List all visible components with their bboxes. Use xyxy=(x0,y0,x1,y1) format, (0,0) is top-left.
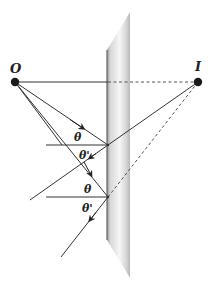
angle-incidence-label-1: θ xyxy=(74,131,82,144)
image-label: I xyxy=(194,59,202,74)
reflection-point-1 xyxy=(107,144,109,146)
reflection-point-2 xyxy=(107,196,109,198)
angle-reflection-label-2: θ' xyxy=(82,202,93,215)
object-point xyxy=(11,78,19,86)
angle-reflection-label-1: θ' xyxy=(79,149,90,162)
object-label: O xyxy=(10,61,22,76)
plane-mirror xyxy=(107,12,130,278)
image-point xyxy=(194,78,202,86)
mirror-reflection-diagram: O I θ θ' θ θ' xyxy=(0,0,212,289)
angle-incidence-label-2: θ xyxy=(84,183,92,196)
